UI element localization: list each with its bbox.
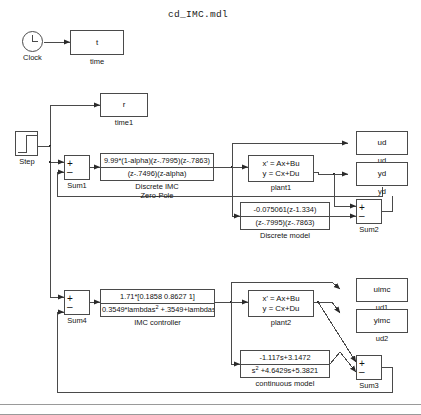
sum2-block-label: Sum2 bbox=[350, 226, 388, 234]
sum4-block[interactable]: + – bbox=[64, 290, 90, 315]
time-block-text: t bbox=[96, 38, 98, 47]
discrete-imc-denominator: (z-.7496)(z-alpha) bbox=[101, 168, 213, 179]
plant2-state-equation: x' = Ax+Bu bbox=[262, 294, 299, 304]
plant2-block[interactable]: x' = Ax+Bu y = Cx+Du bbox=[248, 290, 314, 317]
plant1-block-label: plant1 bbox=[248, 184, 314, 192]
sum3-minus-sign: – bbox=[359, 368, 365, 376]
clock-hand-horizontal-icon bbox=[32, 41, 38, 42]
sum2-minus-sign: – bbox=[359, 212, 365, 220]
yd-sink-text: yd bbox=[378, 169, 386, 178]
discrete-imc-numerator: 9.99*(1-alpha)(z-.7995)(z-.7863) bbox=[101, 155, 213, 167]
imc-controller-denominator: 0.3549*lambdas2 +.3549+lambdas+ bbox=[101, 304, 214, 315]
yd-sink-label: yd bbox=[356, 188, 408, 196]
imc-controller-denominator-post: +.3549+lambdas+ bbox=[159, 305, 215, 314]
sum1-minus-sign: – bbox=[67, 168, 73, 176]
simulink-model-canvas: cd_IMC.mdl bbox=[0, 0, 421, 415]
sum3-block-label: Sum3 bbox=[350, 382, 388, 390]
discrete-imc-block-label-line1: Discrete IMC bbox=[100, 183, 214, 191]
time1-block-label: time1 bbox=[100, 119, 148, 127]
step-waveform-high-icon bbox=[26, 135, 37, 136]
sum4-minus-sign: – bbox=[67, 303, 73, 311]
uimc-sink-block[interactable]: uimc bbox=[356, 278, 408, 302]
ud-sink-block[interactable]: ud bbox=[356, 131, 408, 155]
sum4-block-label: Sum4 bbox=[58, 317, 96, 325]
plant1-state-equation: x' = Ax+Bu bbox=[262, 159, 299, 169]
uimc-sink-text: uimc bbox=[374, 285, 391, 294]
imc-controller-block[interactable]: 1.71*[0.1858 0.8627 1] 0.3549*lambdas2 +… bbox=[100, 289, 215, 317]
time1-block-text: r bbox=[123, 100, 126, 109]
continuous-model-numerator: -1.117s+3.1472 bbox=[241, 352, 329, 364]
discrete-imc-block-label-line2: Zero-Pole bbox=[100, 192, 214, 200]
discrete-imc-block[interactable]: 9.99*(1-alpha)(z-.7995)(z-.7863) (z-.749… bbox=[100, 153, 214, 181]
time1-block[interactable]: r bbox=[100, 93, 148, 117]
continuous-model-block-label: continuous model bbox=[240, 380, 330, 388]
plant1-block[interactable]: x' = Ax+Bu y = Cx+Du bbox=[248, 155, 314, 182]
yimc-sink-block[interactable]: yimc bbox=[356, 309, 408, 333]
plant2-block-label: plant2 bbox=[248, 319, 314, 327]
plant1-output-equation: y = Cx+Du bbox=[262, 169, 299, 179]
imc-controller-numerator: 1.71*[0.1858 0.8627 1] bbox=[101, 291, 214, 303]
model-title: cd_IMC.mdl bbox=[168, 9, 228, 20]
plant2-output-equation: y = Cx+Du bbox=[262, 304, 299, 314]
time-block-label: time bbox=[70, 58, 124, 66]
continuous-model-denominator-post: +4.6429s+5.3821 bbox=[259, 366, 319, 375]
continuous-model-denominator: s2 +4.6429s+5.3821 bbox=[241, 365, 329, 376]
ud-sink-text: ud bbox=[378, 138, 387, 147]
sum1-block[interactable]: + – bbox=[64, 155, 90, 180]
time-block[interactable]: t bbox=[70, 30, 124, 55]
discrete-model-numerator: -0.075061(z-1.334) bbox=[241, 204, 329, 216]
step-waveform-riser-icon bbox=[26, 135, 27, 153]
discrete-model-block-label: Discrete model bbox=[240, 232, 330, 240]
step-block-label: Step bbox=[8, 158, 46, 166]
sum3-block[interactable]: + – bbox=[356, 355, 382, 380]
clock-block[interactable] bbox=[22, 31, 43, 52]
continuous-model-block[interactable]: -1.117s+3.1472 s2 +4.6429s+5.3821 bbox=[240, 350, 330, 378]
discrete-model-block[interactable]: -0.075061(z-1.334) (z-.7995)(z-.7863) bbox=[240, 202, 330, 230]
yimc-sink-text: yimc bbox=[374, 316, 390, 325]
page-frame-rule-top bbox=[0, 404, 421, 405]
sum2-block[interactable]: + – bbox=[356, 199, 382, 224]
sum1-block-label: Sum1 bbox=[58, 182, 96, 190]
yimc-sink-label: ud2 bbox=[356, 335, 408, 343]
imc-controller-block-label: IMC controller bbox=[100, 319, 215, 327]
clock-block-label: Clock bbox=[11, 54, 54, 62]
step-block[interactable] bbox=[15, 131, 38, 156]
yd-sink-block[interactable]: yd bbox=[356, 162, 408, 186]
imc-controller-denominator-pre: 0.3549*lambdas bbox=[102, 305, 155, 314]
discrete-model-denominator: (z-.7995)(z-.7863) bbox=[241, 217, 329, 228]
step-waveform-low-icon bbox=[18, 152, 27, 153]
